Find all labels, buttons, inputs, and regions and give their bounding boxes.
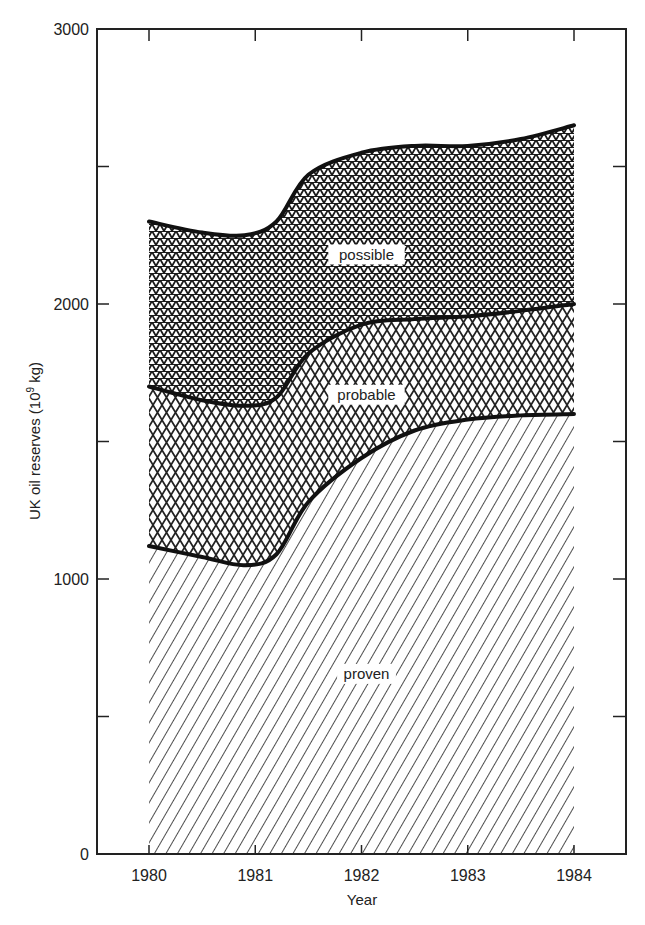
label-probable: probable (328, 385, 404, 405)
y-axis-title-unit: kg) (26, 362, 43, 387)
y-tick-labels: 0100020003000 (53, 21, 89, 863)
label-proven: proven (337, 664, 396, 684)
y-tick-label: 3000 (53, 21, 89, 38)
y-tick-label: 1000 (53, 571, 89, 588)
label-text: probable (337, 386, 395, 403)
x-tick-label: 1983 (450, 867, 486, 884)
x-tick-label: 1982 (344, 867, 380, 884)
reserves-chart: 0100020003000 19801981198219831984 possi… (0, 0, 645, 925)
x-tick-label: 1984 (556, 867, 592, 884)
x-tick-label: 1980 (131, 867, 167, 884)
y-axis-title: UK oil reserves (109 kg) (25, 362, 43, 520)
y-axis-title-main: UK oil reserves (10 (26, 393, 43, 521)
x-tick-labels: 19801981198219831984 (131, 867, 592, 884)
x-tick-label: 1981 (237, 867, 273, 884)
y-tick-label: 0 (80, 846, 89, 863)
y-tick-label: 2000 (53, 296, 89, 313)
label-possible: possible (328, 245, 404, 265)
x-axis-title: Year (347, 891, 377, 908)
label-text: possible (339, 246, 394, 263)
label-text: proven (344, 665, 390, 682)
